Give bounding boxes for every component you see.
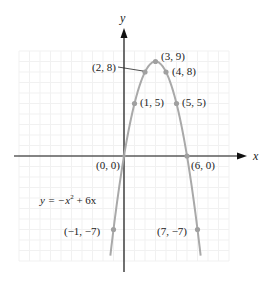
label-2-8: (2, 8) [92, 61, 116, 74]
data-point [132, 101, 137, 106]
parabola-chart: x y (3, 9) (2, 8) (4, 8) (1, 5) (5, 5) (… [0, 0, 274, 282]
label-0-0: (0, 0) [96, 159, 120, 172]
data-point [122, 154, 126, 158]
data-point [142, 69, 147, 74]
equation-label: y = −x2 + 6x [39, 193, 97, 206]
equation-lhs: y = −x [39, 194, 70, 206]
x-axis-arrow-icon [237, 153, 247, 160]
y-axis-arrow-icon [121, 28, 128, 38]
label-1-5: (1, 5) [140, 96, 164, 109]
equation-rhs: + 6x [74, 194, 97, 206]
data-point [174, 101, 179, 106]
y-axis-label: y [119, 11, 126, 25]
label-5-5: (5, 5) [182, 96, 206, 109]
data-point [111, 227, 116, 232]
label-m1-m7: (−1, −7) [64, 225, 101, 238]
label-4-8: (4, 8) [172, 65, 196, 78]
label-3-9: (3, 9) [161, 50, 185, 63]
point-labels: (3, 9) (2, 8) (4, 8) (1, 5) (5, 5) (0, 0… [64, 50, 215, 238]
label-6-0: (6, 0) [191, 159, 215, 172]
x-axis-label: x [252, 149, 259, 163]
data-point [184, 153, 189, 158]
leader-2-8 [118, 67, 143, 71]
data-point [163, 69, 168, 74]
data-point [195, 227, 200, 232]
data-point [153, 59, 158, 64]
label-7-m7: (7, −7) [157, 225, 187, 238]
